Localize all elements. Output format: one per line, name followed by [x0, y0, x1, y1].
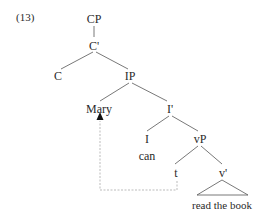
node-c-bar: C'	[89, 40, 99, 52]
node-read-the-book: read the book	[192, 199, 252, 211]
node-mary: Mary	[86, 103, 112, 115]
edge-cbar-ip	[96, 52, 128, 69]
node-v-bar: v'	[219, 167, 227, 179]
edge-cbar-c	[61, 52, 93, 69]
triangle-vbar	[197, 180, 248, 195]
node-vp: vP	[194, 133, 207, 145]
edge-ip-mary	[100, 83, 129, 101]
node-i: I	[145, 133, 149, 145]
tree-edges	[0, 0, 270, 221]
edge-ibar-vp	[172, 116, 198, 131]
node-c: C	[54, 70, 62, 82]
edge-ip-ibar	[132, 83, 167, 101]
node-cp: CP	[87, 13, 102, 25]
node-ip: IP	[125, 70, 136, 82]
edge-vp-t	[175, 146, 198, 164]
node-can: can	[139, 150, 156, 162]
edge-ibar-i	[147, 116, 169, 131]
node-t: t	[174, 167, 177, 179]
edge-vp-vbar	[201, 146, 222, 164]
node-i-bar: I'	[167, 103, 173, 115]
